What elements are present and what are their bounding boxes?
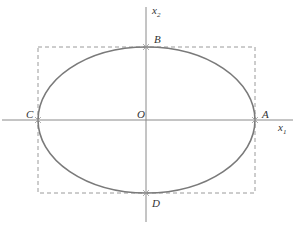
ellipse-diagram: A B C D O x1 x2 [0, 0, 294, 227]
x2-axis-label: x2 [151, 4, 161, 19]
label-c: C [26, 108, 34, 120]
label-d: D [151, 197, 160, 209]
x1-axis-label-subscript: 1 [283, 128, 287, 136]
label-origin: O [137, 108, 145, 120]
x2-axis-label-subscript: 2 [157, 11, 161, 19]
x1-axis-label: x1 [277, 121, 286, 136]
label-b: B [154, 33, 161, 45]
label-a: A [261, 108, 269, 120]
